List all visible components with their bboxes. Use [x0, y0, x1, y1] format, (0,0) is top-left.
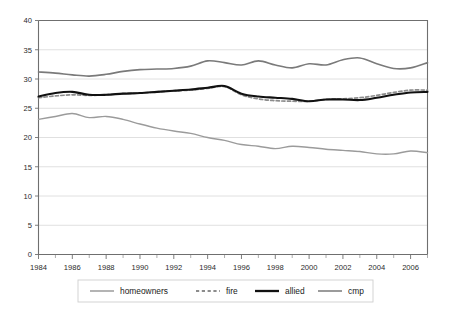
x-tick-label: 1996	[233, 263, 250, 272]
x-tick-label: 1994	[199, 263, 216, 272]
x-tick-label: 2000	[301, 263, 318, 272]
y-tick-label: 5	[28, 221, 32, 230]
legend-label-cmp: cmp	[348, 286, 364, 296]
x-tick-label: 1984	[30, 263, 47, 272]
x-tick-label: 2004	[368, 263, 385, 272]
x-tick-label: 2002	[334, 263, 351, 272]
y-tick-label: 30	[24, 75, 32, 84]
x-tick-label: 1986	[64, 263, 81, 272]
y-tick-label: 25	[24, 104, 32, 113]
x-tick-label: 1998	[267, 263, 284, 272]
y-tick-label: 0	[28, 250, 32, 259]
chart-legend: homeownersfirealliedcmp	[78, 280, 373, 302]
legend-label-allied: allied	[285, 286, 305, 296]
y-tick-label: 10	[24, 192, 32, 201]
x-tick-label: 1992	[165, 263, 182, 272]
legend-label-fire: fire	[226, 286, 238, 296]
x-tick-label: 2006	[402, 263, 419, 272]
y-tick-label: 20	[24, 133, 32, 142]
line-chart: 0510152025303540 19841986198819901992199…	[0, 0, 449, 314]
y-tick-label: 40	[24, 16, 32, 25]
legend-label-homeowners: homeowners	[120, 286, 168, 296]
y-tick-label: 15	[24, 163, 32, 172]
y-tick-label: 35	[24, 46, 32, 55]
x-tick-label: 1988	[98, 263, 115, 272]
x-tick-label: 1990	[132, 263, 149, 272]
chart-figure: 0510152025303540 19841986198819901992199…	[0, 0, 449, 314]
